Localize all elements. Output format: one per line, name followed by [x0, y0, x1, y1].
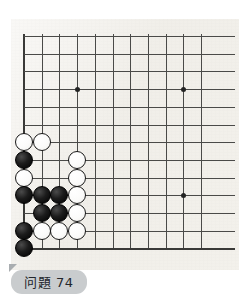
black-stone[interactable] — [15, 239, 33, 257]
page-root: 问題 74 — [0, 0, 239, 300]
grid-line-horizontal — [24, 36, 235, 37]
white-stone[interactable] — [68, 151, 86, 169]
problem-label-text: 问題 74 — [24, 276, 73, 289]
black-stone[interactable] — [50, 186, 68, 204]
white-stone[interactable] — [68, 169, 86, 187]
white-stone[interactable] — [50, 222, 68, 240]
grid-line-horizontal — [24, 160, 235, 161]
black-stone[interactable] — [50, 204, 68, 222]
problem-label-tab[interactable]: 问題 74 — [11, 270, 87, 294]
grid-line-vertical — [130, 34, 131, 248]
star-point — [181, 193, 186, 198]
grid-line-horizontal — [24, 125, 235, 126]
grid-line-horizontal — [24, 107, 235, 108]
black-stone[interactable] — [33, 204, 51, 222]
go-board[interactable] — [11, 19, 239, 270]
grid-line-vertical — [183, 34, 184, 248]
white-stone[interactable] — [15, 169, 33, 187]
white-stone[interactable] — [68, 204, 86, 222]
white-stone[interactable] — [33, 222, 51, 240]
white-stone[interactable] — [15, 133, 33, 151]
grid-line-vertical — [148, 34, 149, 248]
black-stone[interactable] — [15, 151, 33, 169]
black-stone[interactable] — [15, 186, 33, 204]
grid-line-vertical — [95, 34, 96, 248]
grid-line-horizontal — [24, 178, 235, 179]
grid-line-vertical — [201, 34, 202, 248]
white-stone[interactable] — [68, 186, 86, 204]
white-stone[interactable] — [33, 133, 51, 151]
grid-line-horizontal — [24, 89, 235, 90]
star-point — [181, 87, 186, 92]
grid-line-horizontal — [24, 142, 235, 143]
grid-line-horizontal — [24, 71, 235, 72]
grid-line-horizontal — [24, 248, 235, 250]
grid-line-vertical — [113, 34, 114, 248]
white-stone[interactable] — [68, 222, 86, 240]
black-stone[interactable] — [33, 186, 51, 204]
black-stone[interactable] — [15, 222, 33, 240]
grid-line-vertical — [166, 34, 167, 248]
grid-line-horizontal — [24, 54, 235, 55]
star-point — [75, 87, 80, 92]
